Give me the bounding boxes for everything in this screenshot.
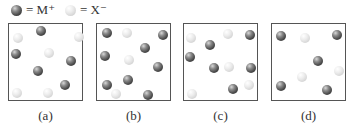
anion-sphere-icon	[297, 72, 307, 82]
legend: = M⁺ = X⁻	[11, 3, 117, 17]
anion-sphere-icon	[334, 66, 344, 76]
cation-sphere-icon	[140, 43, 150, 53]
panel-box-c	[183, 23, 258, 101]
anion-sphere-icon	[74, 32, 84, 42]
legend-item-cation: = M⁺	[11, 2, 55, 18]
legend-label-anion: = X⁻	[80, 2, 107, 18]
panel-box-b	[96, 23, 171, 101]
anion-sphere-icon	[224, 62, 234, 72]
cation-sphere-icon	[158, 30, 168, 40]
cation-sphere-icon	[153, 62, 163, 72]
anion-sphere-icon	[300, 33, 310, 43]
anion-sphere-icon	[187, 89, 197, 99]
cation-sphere-icon	[276, 31, 286, 41]
cation-sphere-icon	[313, 56, 323, 66]
cation-sphere-icon	[33, 66, 43, 76]
cation-sphere-icon	[205, 40, 215, 50]
cation-sphere-icon	[102, 80, 112, 90]
anion-sphere-icon	[111, 89, 121, 99]
cation-sphere-icon	[209, 63, 219, 73]
light-sphere-icon	[65, 5, 76, 16]
dark-sphere-icon	[11, 5, 22, 16]
panel-label-a: (a)	[8, 108, 83, 124]
anion-sphere-icon	[44, 48, 54, 58]
panel-label-c: (c)	[183, 108, 258, 124]
anion-sphere-icon	[223, 29, 233, 39]
anion-sphere-icon	[122, 28, 132, 38]
panel-box-d	[271, 23, 346, 101]
cation-sphere-icon	[123, 75, 133, 85]
cation-sphere-icon	[66, 56, 76, 66]
cation-sphere-icon	[322, 85, 332, 95]
cation-sphere-icon	[100, 51, 110, 61]
cation-sphere-icon	[185, 52, 195, 62]
panel-label-b: (b)	[96, 108, 171, 124]
legend-item-anion: = X⁻	[65, 2, 107, 18]
anion-sphere-icon	[124, 55, 134, 65]
cation-sphere-icon	[60, 80, 70, 90]
cation-sphere-icon	[276, 81, 286, 91]
anion-sphere-icon	[186, 33, 196, 43]
cation-sphere-icon	[36, 26, 46, 36]
cation-sphere-icon	[246, 63, 256, 73]
anion-sphere-icon	[244, 80, 254, 90]
cation-sphere-icon	[143, 90, 153, 100]
legend-label-cation: = M⁺	[26, 2, 55, 18]
panel-box-a	[8, 23, 83, 101]
cation-sphere-icon	[332, 30, 342, 40]
anion-sphere-icon	[13, 33, 23, 43]
panel-label-d: (d)	[271, 108, 346, 124]
anion-sphere-icon	[43, 88, 53, 98]
anion-sphere-icon	[12, 88, 22, 98]
cation-sphere-icon	[228, 84, 238, 94]
cation-sphere-icon	[11, 49, 21, 59]
cation-sphere-icon	[245, 30, 255, 40]
cation-sphere-icon	[102, 28, 112, 38]
